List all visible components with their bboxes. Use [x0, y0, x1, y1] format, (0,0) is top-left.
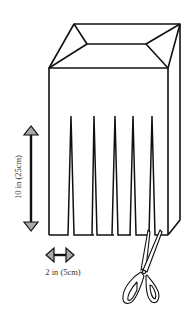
height-label: 10 in (25cm)	[13, 155, 23, 199]
carton-top	[49, 24, 180, 68]
carton-strips	[49, 116, 168, 235]
width-label: 2 in (5cm)	[45, 267, 81, 277]
carton-cutting-diagram: 10 in (25cm) 2 in (5cm)	[0, 0, 192, 324]
scissors-icon	[123, 230, 162, 303]
double-arrow-vertical-icon	[24, 126, 38, 231]
double-arrow-horizontal-icon	[46, 248, 74, 262]
